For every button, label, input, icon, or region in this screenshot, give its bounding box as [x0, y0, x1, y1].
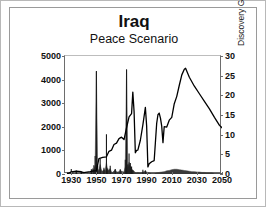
discovery-spikes-series [68, 69, 146, 174]
x-axis-tick: 2050 [212, 175, 232, 185]
y-axis-left-tick: 3000 [41, 98, 61, 108]
x-axis-tick: 2010 [162, 175, 182, 185]
x-axis-tick: 1950 [86, 175, 106, 185]
y-axis-left-tick: 4000 [41, 75, 61, 85]
plot-area: 0100020003000400050000510152025301930195… [64, 55, 221, 173]
y-axis-right-label: Discovery Gb (shaded) [236, 0, 246, 46]
x-axis-tickmark [197, 172, 198, 175]
y-axis-left-tickmark [62, 127, 65, 128]
x-axis-tick: 2030 [187, 175, 207, 185]
y-axis-right-tickmark [220, 154, 223, 155]
chart-inner-frame: Iraq Peace Scenario Production kb/d Disc… [9, 7, 257, 199]
y-axis-right-tick: 5 [225, 149, 230, 159]
y-axis-right-tickmark [220, 76, 223, 77]
y-axis-right-tick: 15 [225, 110, 235, 120]
y-axis-right-tick: 20 [225, 90, 235, 100]
y-axis-right-tickmark [220, 56, 223, 57]
x-axis-tickmark [172, 172, 173, 175]
x-axis-tick: 1930 [61, 175, 81, 185]
y-axis-right-tickmark [220, 115, 223, 116]
y-axis-left-tickmark [62, 56, 65, 57]
x-axis-tickmark [96, 172, 97, 175]
chart-canvas [65, 56, 222, 174]
production-line-series [68, 68, 222, 173]
x-axis-tickmark [71, 172, 72, 175]
y-axis-left-tick: 1000 [41, 145, 61, 155]
y-axis-left-tickmark [62, 150, 65, 151]
y-axis-right-tick: 10 [225, 130, 235, 140]
y-axis-left-tick: 5000 [41, 51, 61, 61]
y-axis-right-tickmark [220, 135, 223, 136]
x-axis-tickmark [122, 172, 123, 175]
y-axis-left-tick: 2000 [41, 122, 61, 132]
y-axis-left-tick: 0 [56, 169, 61, 179]
chart-figure: Iraq Peace Scenario Production kb/d Disc… [0, 0, 266, 207]
y-axis-left-tickmark [62, 80, 65, 81]
y-axis-right-tick: 30 [225, 51, 235, 61]
x-axis-tick: 1990 [137, 175, 157, 185]
y-axis-left-tickmark [62, 103, 65, 104]
x-axis-tickmark [222, 172, 223, 175]
chart-subtitle: Peace Scenario [10, 32, 258, 46]
x-axis-tickmark [147, 172, 148, 175]
y-axis-right-tick: 25 [225, 71, 235, 81]
x-axis-tick: 1970 [112, 175, 132, 185]
discovery-area-series [68, 70, 222, 174]
chart-title: Iraq [10, 13, 258, 31]
y-axis-right-tickmark [220, 95, 223, 96]
